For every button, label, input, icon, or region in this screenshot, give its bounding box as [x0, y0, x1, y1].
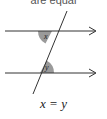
angle-x-label: x: [43, 32, 48, 41]
equation: x = y: [0, 96, 107, 112]
angle-y-label: y: [44, 63, 49, 72]
transversal-line: [33, 11, 67, 94]
